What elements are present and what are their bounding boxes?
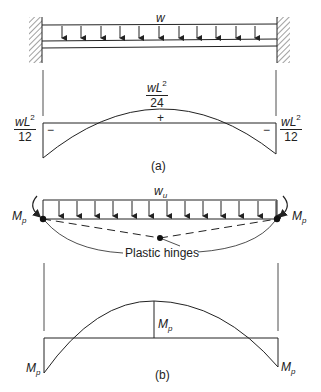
left-moment-label-b: Mp [26,362,40,377]
label-base: M [26,361,36,375]
label-sub: u [163,191,167,200]
plastic-moment-arrow-left [33,196,38,215]
plastic-moment-label-right: Mp [292,210,306,225]
label-num: wL [147,81,162,95]
label-base: w [154,184,163,198]
plastic-hinge-mid [157,235,163,241]
label-den: 12 [14,130,36,143]
plastic-moment-label-left: Mp [12,210,26,225]
label-base: M [12,209,22,223]
label-exp: 2 [30,113,34,122]
plastic-hinges-label: Plastic hinges [125,247,199,259]
fixed-support-right [277,17,290,63]
label-sub: p [36,368,40,377]
distributed-load-b [43,200,277,219]
label-num: wL [15,115,30,129]
moment-diagram-b [44,301,278,373]
right-support-moment-label-a: wL2 12 [280,114,302,143]
label-exp: 2 [162,79,166,88]
midspan-moment-label-b: Mp [158,318,172,333]
right-moment-label-b: Mp [281,361,295,376]
caption-b: (b) [155,369,170,381]
plastic-moment-arrow-right [282,196,287,215]
plastic-hinge-left [40,216,46,222]
distributed-load-a [42,24,277,38]
label-base: M [158,317,168,331]
load-label-wu: wu [154,185,167,200]
beam-a [42,39,277,48]
label-base: M [281,360,291,374]
label-sub: p [291,367,295,376]
fixed-support-left [29,17,42,63]
label-sub: p [302,216,306,225]
negative-sign-right: − [263,124,270,136]
label-den: 24 [146,96,168,109]
negative-sign-left: − [47,124,54,136]
caption-a: (a) [151,160,166,172]
left-support-moment-label-a: wL2 12 [14,114,36,143]
load-label-w: w [156,12,165,24]
label-den: 12 [280,130,302,143]
label-base: M [292,209,302,223]
label-sub: p [168,324,172,333]
label-sub: p [22,216,26,225]
label-num: wL [281,115,296,129]
midspan-moment-label-a: wL2 24 [146,80,168,109]
positive-sign: + [157,112,164,124]
label-exp: 2 [296,113,300,122]
plastic-hinge-right [274,216,280,222]
